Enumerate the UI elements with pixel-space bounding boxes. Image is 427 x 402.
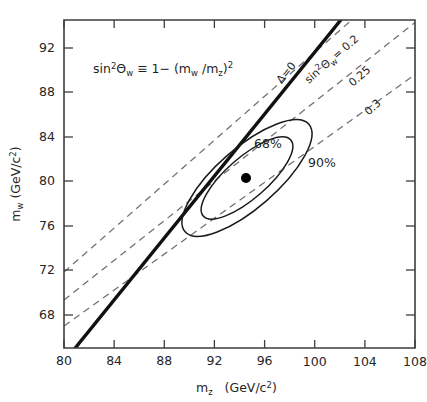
y-axis-title: mw (GeV/c2) [8, 146, 25, 221]
y-tick-label: 76 [39, 218, 55, 233]
y-tick-label: 84 [39, 129, 55, 144]
contour-label-90: 90% [308, 155, 336, 170]
y-tick-label: 68 [39, 307, 55, 322]
eq-sin: sin [93, 61, 111, 76]
figure-root: 80 84 88 92 96 100 104 108 92 88 84 80 7… [0, 0, 427, 402]
x-tick-label: 84 [106, 353, 122, 368]
x-tick-label: 108 [403, 354, 427, 369]
svg-text:mz (GeV/c2): mz (GeV/c2) [196, 380, 277, 397]
mw-mz-confidence-plot: 80 84 88 92 96 100 104 108 92 88 84 80 7… [0, 0, 427, 402]
best-fit-point [241, 173, 251, 183]
eq-theta-sub: w [126, 68, 133, 78]
x-tick-label: 100 [303, 354, 327, 369]
x-tick-label: 104 [353, 354, 377, 369]
y-axis-units: (GeV/c [8, 157, 23, 199]
x-tick-label: 96 [257, 353, 273, 368]
y-tick-label: 92 [39, 40, 55, 55]
eq-slash: /m [198, 61, 218, 76]
x-axis-units-close: ) [272, 380, 277, 395]
y-axis-subscript: w [15, 202, 25, 209]
contour-label-68: 68% [254, 136, 282, 151]
y-axis-symbol: m [8, 209, 23, 221]
eq-mw-sub: w [191, 68, 198, 78]
x-tick-label: 80 [56, 353, 72, 368]
eq-close-sup: 2 [228, 60, 233, 70]
x-axis-title: mz (GeV/c2) [196, 380, 277, 397]
x-tick-label: 92 [206, 353, 222, 368]
y-tick-label: 72 [39, 262, 55, 277]
y-tick-label: 80 [39, 173, 55, 188]
y-axis-units-close: ) [8, 146, 23, 151]
x-axis-symbol: m [196, 380, 208, 395]
eq-equiv: ≡ 1− (m [137, 61, 191, 76]
eq-theta: Θ [116, 61, 126, 76]
x-tick-label: 88 [156, 353, 172, 368]
x-axis-units: (GeV/c [225, 380, 267, 395]
y-tick-label: 88 [39, 84, 55, 99]
svg-text:mw (GeV/c2): mw (GeV/c2) [8, 146, 25, 221]
